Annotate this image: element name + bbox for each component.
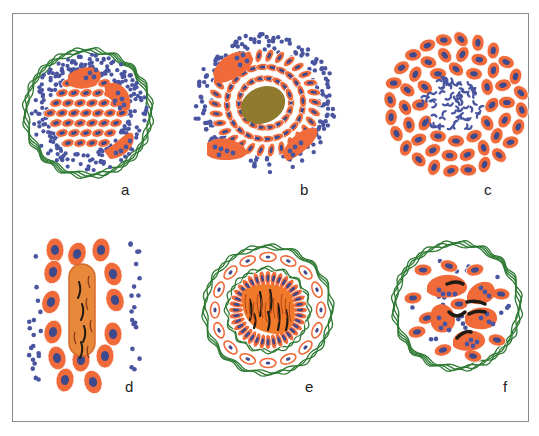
cell	[307, 96, 323, 107]
panel-e	[202, 244, 334, 376]
lymphocyte	[321, 120, 325, 124]
lymphocyte	[443, 322, 448, 327]
cell	[254, 48, 264, 63]
flattened-cell	[260, 253, 276, 262]
cell	[67, 127, 82, 138]
panel-f	[392, 241, 523, 372]
nucleus	[297, 309, 304, 312]
cell	[85, 97, 100, 108]
lymphocyte	[463, 325, 468, 330]
lymphocyte	[137, 276, 142, 281]
cell	[41, 258, 64, 286]
lymphocyte	[60, 67, 64, 71]
cell	[49, 97, 64, 108]
lymphocyte	[118, 106, 123, 111]
lymphocyte	[38, 112, 42, 116]
lymphocyte	[123, 155, 127, 159]
lymphocyte	[252, 37, 256, 41]
lymphocyte	[331, 107, 335, 111]
lymphocyte	[271, 39, 275, 43]
panel-label-f: f	[503, 378, 508, 395]
panel-label-a: a	[121, 181, 130, 198]
lymphocyte	[30, 111, 34, 115]
lymphocyte	[60, 155, 64, 159]
lymphocyte	[41, 118, 45, 122]
lymphocyte	[47, 71, 51, 75]
lymphocyte	[42, 98, 46, 102]
cell	[303, 79, 318, 87]
lymphocyte	[135, 249, 140, 254]
lymphocyte	[325, 79, 329, 83]
cell	[396, 97, 415, 118]
cell	[61, 117, 76, 128]
lymphocyte	[249, 158, 253, 162]
nuclear-fragment	[456, 101, 460, 106]
cell	[433, 342, 454, 359]
lymphocyte	[263, 47, 267, 51]
nuclear-fragment	[469, 87, 474, 88]
cell	[450, 298, 468, 311]
lymphocyte	[108, 165, 112, 169]
nuclear-fragment	[430, 100, 435, 102]
lymphocyte	[314, 57, 318, 61]
lymphocyte	[291, 165, 295, 169]
cell	[85, 117, 100, 128]
lymphocyte	[90, 53, 94, 57]
cell	[457, 145, 478, 164]
dark-inclusion	[449, 312, 465, 316]
lymphocyte	[122, 103, 127, 108]
lymphocyte	[48, 134, 52, 138]
nuclear-fragment	[422, 100, 423, 105]
lymphocyte	[86, 154, 90, 158]
lymphocyte	[132, 367, 137, 372]
cell	[97, 97, 112, 108]
cell	[447, 134, 465, 147]
cell	[476, 154, 493, 174]
flattened-cell	[317, 302, 326, 318]
lymphocyte	[280, 39, 284, 43]
cell	[73, 97, 88, 108]
lymphocyte	[447, 328, 452, 333]
cell	[79, 87, 94, 98]
cell	[101, 260, 124, 288]
lymphocyte	[88, 57, 92, 61]
lymphocyte	[208, 120, 212, 124]
lymphocyte	[240, 42, 244, 46]
lymphocyte	[244, 34, 248, 38]
lymphocyte	[130, 78, 134, 82]
lymphocyte	[135, 125, 139, 129]
lymphocyte	[216, 56, 220, 60]
nucleus	[213, 308, 216, 313]
lymphocyte	[306, 47, 310, 51]
lymphocyte	[57, 74, 61, 78]
lymphocyte	[92, 168, 96, 172]
lymphocyte	[487, 294, 492, 299]
lymphocyte	[109, 73, 113, 77]
nuclear-fragment	[421, 95, 426, 97]
lymphocyte	[122, 127, 126, 131]
lymphocyte	[119, 130, 123, 134]
nucleus	[266, 255, 271, 258]
cell	[480, 78, 495, 97]
lymphocyte	[133, 109, 137, 113]
lymphocyte	[317, 125, 321, 129]
flattened-cell	[310, 321, 324, 339]
lymphocyte	[135, 132, 139, 136]
lymphocyte	[297, 45, 301, 49]
cell	[451, 29, 472, 50]
cell	[487, 332, 507, 348]
lymphocyte	[94, 68, 99, 73]
nuclear-fragment	[434, 125, 439, 127]
cell	[91, 237, 111, 263]
lymphocyte	[245, 46, 249, 50]
flattened-cell	[239, 352, 257, 366]
lymphocyte	[96, 150, 100, 154]
lymphocyte	[40, 88, 44, 92]
nucleus	[319, 308, 322, 313]
lymphocyte	[322, 127, 326, 131]
cell	[67, 87, 82, 98]
lymphocyte	[128, 241, 133, 246]
lymphocyte	[235, 56, 240, 61]
nuclear-fragment	[450, 92, 453, 97]
nucleus	[233, 309, 240, 312]
